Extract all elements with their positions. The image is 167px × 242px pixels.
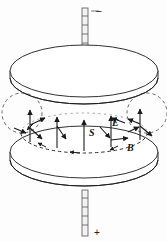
negative-terminal-label: – (96, 6, 102, 16)
positive-terminal-label: + (94, 228, 100, 238)
bottom-rod (82, 190, 88, 236)
electric-field-label: E (112, 118, 119, 128)
right-edge-circle (127, 93, 167, 133)
magnetic-field-label: B (127, 143, 134, 153)
poynting-vector-label: S (89, 128, 95, 138)
top-plate (10, 45, 158, 104)
figure-canvas (0, 0, 167, 242)
left-edge-circle (2, 93, 42, 133)
capacitor-poynting-figure: S E B – + (0, 0, 167, 242)
